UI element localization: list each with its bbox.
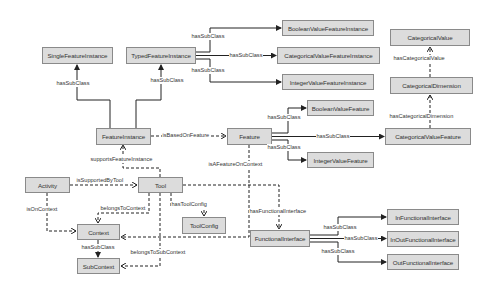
node-tool-config[interactable]: ToolConfig [182, 217, 226, 234]
edge-label-is-a-feature-on-context: isAFeatureOnContext [208, 161, 263, 168]
edge-label-context-sub: hasSubClass [81, 244, 115, 251]
node-in-out-functional-interface[interactable]: InOutFunctionalInterface [387, 231, 459, 247]
edge-fi-typed [136, 65, 161, 128]
edge-label-feat-int: hasSubClass [267, 144, 301, 151]
node-categorical-value-feature-instance[interactable]: CategoricalValueFeatureInstance [277, 47, 380, 64]
node-single-feature-instance[interactable]: SingleFeatureInstance [42, 47, 113, 64]
node-integer-value-feature[interactable]: IntegerValueFeature [307, 152, 374, 168]
edge-label-belongs-to-sub-context: belongsToSubContext [130, 249, 186, 256]
node-feature[interactable]: Feature [227, 128, 272, 145]
diagram-canvas: SingleFeatureInstance TypedFeatureInstan… [0, 0, 484, 286]
node-in-functional-interface[interactable]: InFunctionalInterface [387, 209, 459, 225]
node-categorical-dimension[interactable]: CategoricalDimension [390, 77, 473, 94]
edge-label-fint-inout: hasSubClass [344, 235, 378, 242]
node-boolean-value-feature-instance[interactable]: BooleanValueFeatureInstance [282, 20, 374, 36]
node-context[interactable]: Context [77, 224, 120, 240]
edge-label-typed-int: hasSubClass [191, 67, 225, 74]
node-tool[interactable]: Tool [138, 177, 183, 193]
node-categorical-value[interactable]: CategoricalValue [390, 29, 470, 46]
node-integer-value-feature-instance[interactable]: IntegerValueFeatureInstance [282, 74, 374, 90]
node-sub-context[interactable]: SubContext [77, 258, 120, 274]
node-feature-instance[interactable]: FeatureInstance [96, 128, 151, 145]
edge-label-fint-in: hasSubClass [323, 224, 357, 231]
node-activity[interactable]: Activity [25, 177, 70, 193]
edge-label-has-functional-interface: hasFunctionalInterface [249, 208, 307, 215]
edge-label-fi-single: hasSubClass [56, 80, 90, 87]
node-boolean-value-feature[interactable]: BooleanValueFeature [307, 100, 374, 116]
node-out-functional-interface[interactable]: OutFunctionalInterface [387, 254, 459, 270]
edge-label-fi-typed: hasSubClass [150, 77, 184, 84]
edge-label-typed-bool: hasSubClass [191, 33, 225, 40]
edge-label-is-on-context: isOnContext [26, 206, 58, 213]
node-typed-feature-instance[interactable]: TypedFeatureInstance [126, 47, 196, 64]
edge-label-feat-cat: hasSubClass [316, 133, 350, 140]
edge-label-has-categorical-value: hasCategoricalValue [393, 55, 445, 62]
edge-label-is-supported-by-tool: isSupportedByTool [76, 177, 124, 184]
node-functional-interface[interactable]: FunctionalInterface [250, 230, 310, 247]
node-categorical-value-feature[interactable]: CategoricalValueFeature [385, 128, 471, 145]
edge-typed-bool [196, 28, 281, 52]
edge-label-fint-out: hasSubClass [321, 248, 355, 255]
edge-label-supports-feature-instance: supportsFeatureInstance [90, 156, 153, 163]
edge-label-is-based-on-feature: isBasedOnFeature [162, 132, 210, 139]
edge-label-belongs-to-context: belongsToContext [100, 205, 146, 212]
edge-fi-single [77, 65, 110, 128]
edge-label-typed-cat: hasSubClass [229, 52, 263, 59]
edge-label-has-categorical-dimension: hasCategoricalDimension [389, 113, 454, 120]
edge-label-has-tool-config: hasToolConfig [171, 201, 207, 208]
edge-label-feat-bool: hasSubClass [267, 114, 301, 121]
